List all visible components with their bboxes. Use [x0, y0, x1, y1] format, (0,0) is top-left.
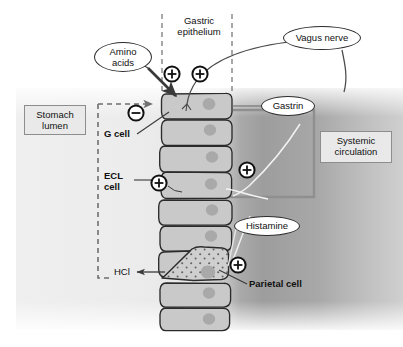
- parietal-cell-label: Parietal cell: [249, 278, 329, 289]
- sign-plus-ecl-cell: [151, 175, 166, 190]
- nucleus: [203, 313, 215, 325]
- gastric-epithelium-label: Gastric epithelium: [168, 15, 230, 37]
- cell-g-cell: [162, 93, 233, 119]
- stomach-lumen-line2: lumen: [30, 120, 80, 131]
- stomach-lumen-box: Stomach lumen: [24, 105, 86, 135]
- hcl-text: HCl: [114, 266, 130, 277]
- gastric-acid-regulation-svg: [0, 0, 403, 347]
- gastric-epithelium-line1: Gastric: [168, 15, 230, 26]
- nucleus: [203, 98, 216, 110]
- sign-plus-gastrin-ecl: [239, 162, 254, 177]
- g-cell-text: G cell: [104, 128, 130, 139]
- sign-plus-vagus-g-cell: [164, 66, 179, 81]
- amino-acids-callout: Amino acids: [94, 42, 152, 72]
- ecl-cell-line2: cell: [104, 181, 136, 192]
- gastrin-text: Gastrin: [262, 101, 314, 112]
- amino-acids-text: Amino acids: [95, 47, 151, 68]
- nucleus: [205, 178, 217, 190]
- stomach-lumen-line1: Stomach: [30, 109, 80, 120]
- sign-plus-vagus-epithelium: [192, 66, 207, 81]
- gastric-epithelial-cell-column: [159, 93, 232, 330]
- gastric-epithelium-line2: epithelium: [168, 26, 230, 37]
- sign-plus-parietal-cell: [230, 257, 245, 272]
- gastrin-callout: Gastrin: [261, 96, 315, 116]
- ecl-cell-line1: ECL: [104, 170, 136, 181]
- cell-epithelial-3: [160, 146, 232, 172]
- systemic-circulation-line1: Systemic: [326, 135, 386, 146]
- vagus-nerve-text: Vagus nerve: [284, 33, 360, 44]
- diagram-canvas: Gastric epithelium Amino acids Vagus ner…: [0, 0, 403, 347]
- vagus-nerve-callout: Vagus nerve: [283, 26, 361, 50]
- parietal-cell-text: Parietal cell: [249, 278, 302, 289]
- nucleus: [201, 265, 215, 278]
- g-cell-label: G cell: [104, 128, 144, 139]
- cell-epithelial-9: [160, 308, 230, 331]
- histamine-callout: Histamine: [234, 216, 300, 236]
- ecl-cell-label: ECL cell: [104, 170, 136, 192]
- sign-minus-g-cell: [128, 105, 143, 120]
- cell-ecl-cell: [161, 172, 232, 199]
- systemic-circulation-box: Systemic circulation: [320, 131, 392, 163]
- histamine-text: Histamine: [235, 221, 299, 232]
- nucleus: [203, 287, 215, 299]
- amino-acids-line1: Amino: [95, 47, 151, 58]
- cell-epithelial-5: [159, 200, 232, 225]
- nucleus: [204, 124, 216, 136]
- systemic-circulation-line2: circulation: [326, 146, 386, 157]
- cell-epithelial-2: [162, 120, 233, 146]
- cell-epithelial-8: [160, 283, 231, 307]
- nucleus: [206, 204, 218, 216]
- hcl-label: HCl: [114, 266, 138, 277]
- nucleus: [206, 151, 218, 163]
- amino-acids-line2: acids: [95, 57, 151, 68]
- nucleus: [205, 230, 217, 242]
